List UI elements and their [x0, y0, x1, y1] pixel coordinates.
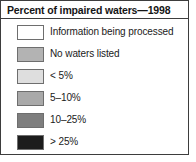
- title-divider: [1, 18, 188, 19]
- legend-item: No waters listed: [1, 44, 188, 66]
- swatch-over-25-percent: [17, 135, 44, 150]
- legend-item: Information being processed: [1, 22, 188, 44]
- legend-item: 5–10%: [1, 88, 188, 110]
- legend-item-label: Information being processed: [50, 26, 174, 37]
- legend-item-label: > 25%: [50, 136, 78, 147]
- legend-item-label: No waters listed: [50, 48, 120, 59]
- legend-item-label: < 5%: [50, 70, 73, 81]
- swatch-information-being-processed: [17, 25, 44, 40]
- swatch-5-to-10-percent: [17, 91, 44, 106]
- swatch-10-to-25-percent: [17, 113, 44, 128]
- legend-item-label: 5–10%: [50, 92, 81, 103]
- legend-title: Percent of impaired waters—1998: [7, 4, 170, 16]
- legend-item-list: Information being processed No waters li…: [1, 22, 188, 154]
- swatch-no-waters-listed: [17, 47, 44, 62]
- legend-item: < 5%: [1, 66, 188, 88]
- legend-item-label: 10–25%: [50, 114, 86, 125]
- map-legend: Percent of impaired waters—1998 Informat…: [0, 0, 189, 155]
- legend-item: 10–25%: [1, 110, 188, 132]
- swatch-under-5-percent: [17, 69, 44, 84]
- legend-item: > 25%: [1, 132, 188, 154]
